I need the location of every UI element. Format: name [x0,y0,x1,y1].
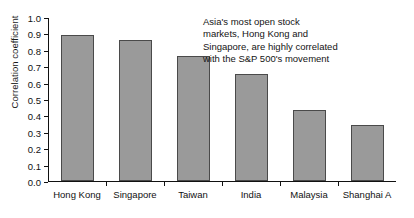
y-tick-mark [44,67,48,68]
bar [293,110,326,181]
y-tick-label: 0.3 [28,127,41,138]
y-tick-mark [44,182,48,183]
bar [119,40,152,181]
x-tick-label: Shanghai A [343,189,392,200]
y-tick-mark [44,34,48,35]
y-tick-mark [44,149,48,150]
annotation-line: markets, Hong Kong and [203,28,403,40]
x-tick-label: Hong Kong [53,189,101,200]
y-tick-label: 0.1 [28,160,41,171]
x-tick-mark [106,182,107,186]
y-tick-label: 0.4 [28,111,41,122]
annotation-line: Singapore, are highly correlated [203,41,403,53]
y-tick-label: 0.0 [28,177,41,188]
bar [177,56,210,181]
chart-annotation: Asia's most open stockmarkets, Hong Kong… [203,16,403,66]
annotation-line: Asia's most open stock [203,16,403,28]
y-tick-label: 0.2 [28,144,41,155]
x-tick-label: Malaysia [290,189,328,200]
y-axis-title: Correlation coefficient [8,6,22,118]
y-tick-mark [44,116,48,117]
x-tick-mark [164,182,165,186]
y-tick-label: 1.0 [28,13,41,24]
y-tick-label: 0.7 [28,62,41,73]
x-tick-label: India [241,189,262,200]
y-tick-mark [44,51,48,52]
bar [61,35,94,181]
y-tick-label: 0.6 [28,78,41,89]
bar [351,125,384,181]
x-tick-mark [338,182,339,186]
y-tick-mark [44,18,48,19]
y-tick-label: 0.9 [28,29,41,40]
bar [235,74,268,181]
y-tick-label: 0.5 [28,95,41,106]
y-tick-mark [44,166,48,167]
y-tick-label: 0.8 [28,45,41,56]
correlation-bar-chart: Correlation coefficient 0.00.10.20.30.40… [0,0,414,218]
y-tick-mark [44,84,48,85]
annotation-line: with the S&P 500's movement [203,53,403,65]
x-tick-mark [280,182,281,186]
x-tick-label: Singapore [113,189,156,200]
x-tick-mark [222,182,223,186]
y-axis-line [48,18,49,182]
y-tick-mark [44,133,48,134]
x-tick-label: Taiwan [178,189,208,200]
y-tick-mark [44,100,48,101]
